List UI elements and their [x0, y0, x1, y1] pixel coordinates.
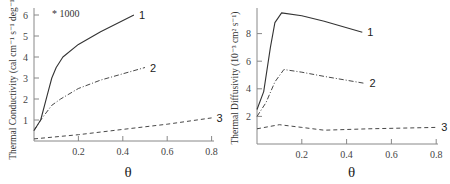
x-tick-label: 0.2 — [296, 149, 309, 160]
series-line-1 — [34, 15, 134, 131]
x-tick-label: 0.6 — [385, 149, 398, 160]
y-tick-label: 1 — [23, 115, 28, 126]
y-tick-label: 6 — [246, 56, 251, 67]
x-axis-label: θ — [124, 164, 131, 180]
x-tick-label: 0.4 — [117, 146, 130, 157]
x-tick-label: 0.2 — [72, 146, 85, 157]
y-tick-label: 5 — [23, 31, 28, 42]
series-label-3: 3 — [217, 112, 223, 124]
chart-1: 0.20.40.60.8123456Thermal Conductivity (… — [8, 0, 223, 180]
chart-canvas: 0.20.40.60.8123456Thermal Conductivity (… — [0, 0, 450, 184]
y-axis-label: Thermal Conductivity (cal cm⁻¹ s⁻¹ deg⁻¹… — [8, 0, 19, 160]
chart-2: 0.20.40.60.82468Thermal Diffusivity (10⁻… — [230, 8, 447, 180]
y-tick-label: 2 — [246, 111, 251, 122]
series-label-2: 2 — [370, 77, 376, 89]
series-line-1 — [257, 13, 362, 110]
y-tick-label: 2 — [23, 94, 28, 105]
y-tick-label: 4 — [23, 52, 28, 63]
y-axis-label: Thermal Diffusivity (10⁻³ cm² s⁻¹) — [230, 12, 241, 145]
series-label-2: 2 — [150, 62, 156, 74]
series-label-1: 1 — [139, 9, 145, 21]
series-line-2 — [257, 70, 365, 117]
x-axis-label: θ — [348, 164, 355, 180]
series-line-3 — [257, 125, 436, 131]
scale-annotation: * 1000 — [52, 8, 80, 19]
y-tick-label: 8 — [246, 28, 251, 39]
x-tick-label: 0.6 — [161, 146, 174, 157]
series-label-1: 1 — [367, 26, 373, 38]
y-tick-label: 6 — [23, 10, 28, 21]
x-tick-label: 0.8 — [430, 149, 443, 160]
y-tick-label: 4 — [246, 83, 251, 94]
x-tick-label: 0.4 — [340, 149, 353, 160]
series-line-3 — [34, 118, 212, 139]
series-line-2 — [34, 68, 145, 131]
y-tick-label: 3 — [23, 73, 28, 84]
series-label-3: 3 — [441, 121, 447, 133]
x-tick-label: 0.8 — [205, 146, 218, 157]
